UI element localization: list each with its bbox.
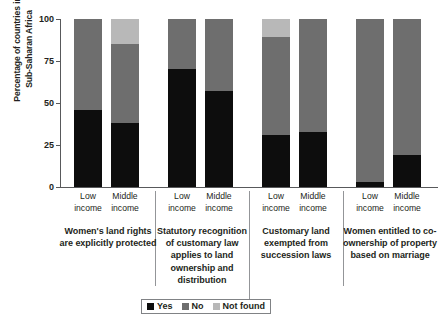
legend-label: Yes	[157, 302, 173, 311]
y-axis-tick-mark	[56, 61, 60, 62]
legend-swatch	[182, 303, 189, 310]
stacked-bar	[111, 19, 139, 187]
legend-swatch	[147, 303, 154, 310]
legend-label: No	[192, 302, 204, 311]
bar-segment-not-found	[262, 19, 290, 37]
bar-segment-yes	[393, 155, 421, 187]
y-axis-tick-mark	[56, 145, 60, 146]
bar-segment-yes	[205, 91, 233, 187]
chart-legend: YesNoNot found	[141, 299, 271, 314]
x-axis-group-label: Women's land rights are explicitly prote…	[58, 225, 158, 249]
stacked-bar	[299, 19, 327, 187]
bar-segment-no	[356, 19, 384, 182]
x-axis-group-label: Customary land exempted from succession …	[246, 225, 346, 262]
stacked-bar	[74, 19, 102, 187]
y-axis-tick-label: 100	[39, 14, 54, 24]
bar-segment-yes	[299, 132, 327, 187]
y-axis-tick-label: 50	[44, 98, 54, 108]
y-axis-title: Percentage of countries in Sub-Saharan A…	[12, 0, 42, 134]
bar-segment-yes	[74, 110, 102, 187]
x-axis-group-label: Women entitled to co-ownership of proper…	[340, 225, 440, 262]
y-axis-tick-mark	[56, 187, 60, 188]
bar-segment-yes	[111, 123, 139, 187]
x-axis-line	[60, 187, 438, 188]
bar-segment-not-found	[111, 19, 139, 44]
bar-series-container	[61, 19, 437, 187]
bar-segment-yes	[262, 135, 290, 187]
legend-swatch	[213, 303, 220, 310]
x-axis-tick-label: Middle income	[287, 191, 339, 214]
bar-segment-no	[74, 19, 102, 110]
stacked-bar	[393, 19, 421, 187]
bar-segment-no	[168, 19, 196, 69]
y-axis-tick-mark	[56, 19, 60, 20]
legend-item: Yes	[147, 302, 173, 311]
bar-segment-no	[205, 19, 233, 91]
x-axis-tick-label: Middle income	[381, 191, 433, 214]
y-axis-tick-label: 25	[44, 140, 54, 150]
stacked-bar	[262, 19, 290, 187]
legend-label: Not found	[223, 302, 265, 311]
stacked-bar	[356, 19, 384, 187]
legend-item: No	[182, 302, 204, 311]
legend-item: Not found	[213, 302, 265, 311]
bar-segment-no	[111, 44, 139, 123]
x-axis-tick-label: Middle income	[99, 191, 151, 214]
x-axis-tick-label: Middle income	[193, 191, 245, 214]
bar-segment-no	[299, 19, 327, 132]
bar-segment-yes	[356, 182, 384, 187]
y-axis-tick-label: 75	[44, 56, 54, 66]
stacked-bar	[168, 19, 196, 187]
chart-figure: Percentage of countries in Sub-Saharan A…	[0, 0, 443, 323]
bar-segment-no	[393, 19, 421, 155]
stacked-bar	[205, 19, 233, 187]
plot-area: 0255075100	[61, 19, 437, 187]
y-axis-tick-label: 0	[49, 182, 54, 192]
x-axis-group-label: Statutory recognition of customary law a…	[152, 225, 252, 286]
y-axis-tick-mark	[56, 103, 60, 104]
bar-segment-no	[262, 37, 290, 134]
bar-segment-yes	[168, 69, 196, 187]
